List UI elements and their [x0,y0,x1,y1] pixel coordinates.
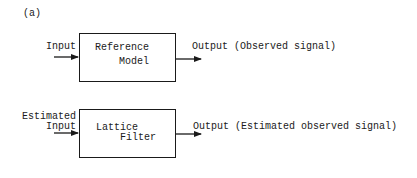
reference-model-input-label: Input [46,41,76,52]
reference-model-output-label: Output (Observed signal) [192,41,336,52]
lattice-filter-output-label: Output (Estimated observed signal) [193,121,397,132]
reference-model-title-line2: Model [119,56,149,67]
lattice-filter-input-label-line2: Input [46,121,76,132]
signal-arrows [0,0,417,178]
lattice-filter-title-line2: Filter [120,132,156,143]
reference-model-block: Reference Model [79,33,176,82]
lattice-filter-block: Lattice Filter [79,109,176,158]
reference-model-title-line1: Reference [95,42,149,53]
